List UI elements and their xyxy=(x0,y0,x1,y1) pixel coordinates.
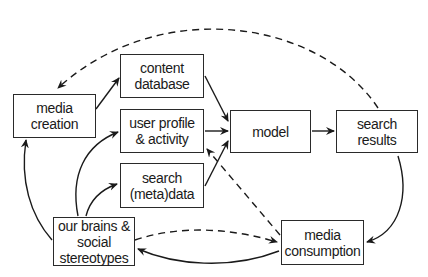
edge-consumption-to-brains xyxy=(138,249,279,263)
edge-brains-to-metadata xyxy=(86,184,117,216)
node-label: media xyxy=(31,100,78,116)
node-content-database: contentdatabase xyxy=(120,54,204,98)
node-label: consumption xyxy=(284,243,360,259)
node-label: creation xyxy=(31,116,78,132)
node-search-metadata: search(meta)data xyxy=(120,163,204,208)
node-model: model xyxy=(230,110,311,153)
node-label: media xyxy=(284,227,360,243)
node-brains-stereotypes: our brains &socialstereotypes xyxy=(53,217,135,266)
edge-brains-to-consumption-dashed xyxy=(135,230,277,242)
node-label: stereotypes xyxy=(58,250,130,266)
node-label: user profile xyxy=(129,115,195,131)
node-label: content xyxy=(134,60,189,76)
node-label: database xyxy=(134,76,189,92)
edge-creation-to-database xyxy=(96,78,119,109)
node-label: (meta)data xyxy=(130,186,195,202)
node-label: search xyxy=(357,116,397,132)
node-label: our brains & xyxy=(58,218,130,234)
node-label: results xyxy=(357,132,397,148)
node-label: model xyxy=(252,124,289,140)
node-user-profile: user profile& activity xyxy=(120,109,204,153)
node-search-results: searchresults xyxy=(336,110,418,153)
node-media-consumption: mediaconsumption xyxy=(281,220,364,265)
edge-metadata-to-model xyxy=(205,141,228,186)
edge-results-to-consumption xyxy=(367,156,403,242)
edge-brains-to-profile xyxy=(76,132,118,216)
node-label: search xyxy=(130,170,195,186)
node-label: social xyxy=(58,234,130,250)
edge-database-to-model xyxy=(205,76,228,121)
node-media-creation: mediacreation xyxy=(13,94,96,138)
edge-brains-to-creation xyxy=(24,140,52,240)
node-label: & activity xyxy=(129,131,195,147)
